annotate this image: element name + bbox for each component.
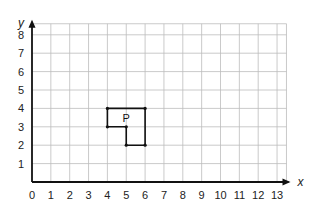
coordinate-grid: 01234567891011121312345678 P x y <box>0 0 320 205</box>
x-tick-label: 11 <box>234 189 245 201</box>
y-tick-label: 1 <box>18 158 24 170</box>
x-tick-label: 0 <box>29 189 35 201</box>
x-tick-label: 13 <box>271 189 283 201</box>
tick-labels: 01234567891011121312345678 <box>18 29 283 201</box>
y-tick-label: 8 <box>18 29 24 41</box>
y-tick-label: 5 <box>18 84 24 96</box>
x-tick-label: 1 <box>48 189 54 201</box>
shape-vertex <box>144 107 147 110</box>
y-tick-label: 6 <box>18 66 24 78</box>
x-tick-label: 4 <box>104 189 110 201</box>
shape-vertex <box>106 125 109 128</box>
shape-vertex <box>125 125 128 128</box>
x-tick-label: 6 <box>142 189 148 201</box>
y-tick-label: 2 <box>18 139 24 151</box>
shape-label: P <box>123 112 130 124</box>
x-tick-label: 7 <box>161 189 167 201</box>
x-tick-label: 12 <box>252 189 264 201</box>
shape-vertex <box>144 144 147 147</box>
shape-vertex <box>106 107 109 110</box>
y-tick-label: 3 <box>18 121 24 133</box>
shape-vertex <box>125 144 128 147</box>
x-axis-label: x <box>296 175 304 189</box>
x-tick-label: 5 <box>123 189 129 201</box>
y-tick-label: 7 <box>18 47 24 59</box>
y-axis-label: y <box>17 16 25 30</box>
x-tick-label: 8 <box>180 189 186 201</box>
x-tick-label: 3 <box>85 189 91 201</box>
grid-lines <box>32 24 286 182</box>
x-tick-label: 2 <box>67 189 73 201</box>
x-tick-label: 9 <box>199 189 205 201</box>
x-tick-label: 10 <box>214 189 226 201</box>
y-tick-label: 4 <box>18 102 24 114</box>
axes <box>29 20 291 186</box>
